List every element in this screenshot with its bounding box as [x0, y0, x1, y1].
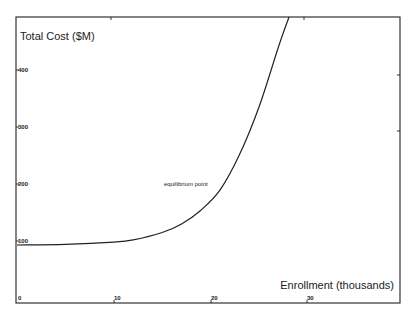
y-tick-labels: 100 200 300 400 [18, 67, 29, 244]
x-tick-labels: 0 10 20 30 [18, 295, 314, 301]
x-tick-20: 20 [211, 295, 218, 301]
tick-marks [16, 17, 400, 303]
plot-frame [16, 17, 400, 303]
y-tick-300: 300 [18, 124, 29, 130]
x-tick-0: 0 [18, 295, 22, 301]
x-tick-10: 10 [114, 295, 121, 301]
equilibrium-point-annotation: equilibrium point [164, 181, 208, 187]
x-tick-30: 30 [307, 295, 314, 301]
y-tick-400: 400 [18, 67, 29, 73]
x-axis-label: Enrollment (thousands) [280, 279, 394, 291]
y-tick-100: 100 [18, 238, 29, 244]
chart: Total Cost ($M) Enrollment (thousands) 1… [0, 0, 414, 318]
y-axis-label: Total Cost ($M) [20, 30, 95, 42]
y-tick-200: 200 [18, 181, 29, 187]
cost-curve-line [17, 17, 289, 245]
